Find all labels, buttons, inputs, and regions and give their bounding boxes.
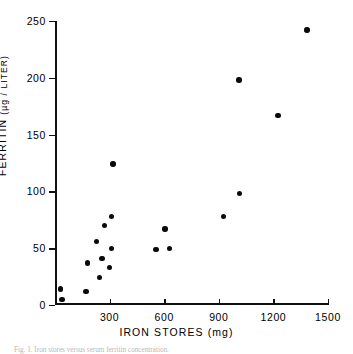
y-tick-label: 250 — [27, 16, 46, 27]
y-tick-mark — [49, 78, 55, 79]
data-point — [83, 289, 88, 294]
x-axis-title: IRON STORES (mg) — [0, 326, 353, 338]
data-point — [102, 223, 107, 228]
y-axis-line — [55, 21, 57, 305]
x-tick-label: 900 — [209, 312, 228, 323]
plot-area: 050100150200250 30060090012001500 — [55, 21, 328, 305]
y-tick-mark — [49, 21, 55, 22]
data-point — [221, 214, 226, 219]
x-tick-mark — [219, 299, 220, 305]
y-axis-title-main: FERRITIN — [0, 119, 8, 176]
data-point — [107, 265, 112, 270]
y-tick-label: 0 — [40, 300, 46, 311]
data-point — [109, 214, 114, 219]
data-point — [153, 247, 158, 252]
data-point — [109, 246, 114, 251]
x-tick-mark — [273, 299, 274, 305]
y-tick-mark — [49, 135, 55, 136]
data-point — [167, 246, 172, 251]
y-tick-mark — [49, 248, 55, 249]
x-tick-label: 1500 — [315, 312, 341, 323]
data-point — [97, 275, 102, 280]
data-point — [94, 239, 99, 244]
x-tick-label: 600 — [155, 312, 174, 323]
data-point — [99, 256, 104, 261]
x-tick-mark — [164, 299, 165, 305]
y-tick-mark — [49, 191, 55, 192]
data-point — [304, 27, 309, 32]
y-tick-label: 200 — [27, 73, 46, 84]
y-tick-label: 150 — [27, 129, 46, 140]
y-tick-label: 100 — [27, 186, 46, 197]
data-point — [58, 286, 63, 291]
y-axis-title-units: (µg / LITER) — [0, 55, 9, 115]
x-tick-label: 300 — [100, 312, 119, 323]
data-point — [275, 113, 280, 118]
data-point — [110, 161, 115, 166]
data-point — [162, 226, 167, 231]
x-axis-line — [55, 303, 328, 305]
figure-caption: Fig. 1. Iron stores versus serum ferriti… — [14, 346, 343, 354]
x-tick-mark — [110, 299, 111, 305]
x-tick-mark — [328, 299, 329, 305]
data-point — [236, 77, 241, 82]
y-axis-title: FERRITIN (µg / LITER) — [0, 55, 9, 176]
data-point — [237, 191, 242, 196]
data-point — [59, 297, 64, 302]
y-tick-label: 50 — [33, 243, 46, 254]
y-tick-mark — [49, 305, 55, 306]
data-point — [85, 260, 90, 265]
x-tick-label: 1200 — [261, 312, 287, 323]
scatter-plot-figure: 050100150200250 30060090012001500 FERRIT… — [0, 0, 353, 354]
